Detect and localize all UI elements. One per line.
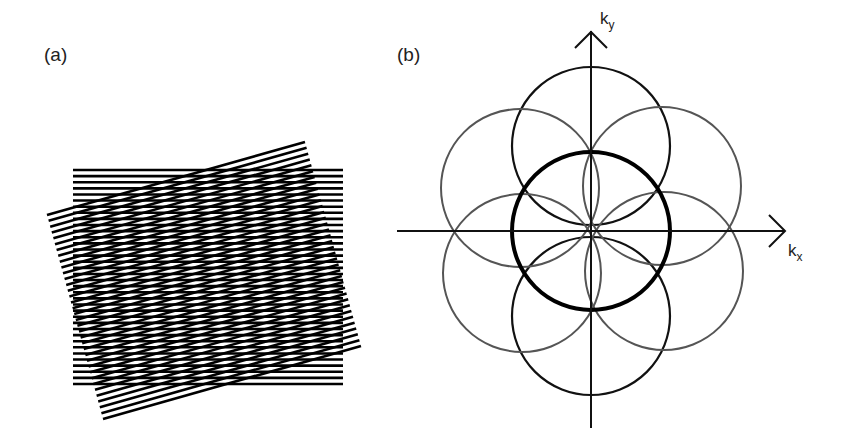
- outer-circle-4: [583, 107, 741, 265]
- ky-label: ky: [600, 9, 615, 32]
- ky-axis: [575, 31, 607, 428]
- outer-circle-6: [585, 192, 743, 350]
- kx-label: kx: [788, 241, 803, 264]
- outer-circle-3: [441, 109, 599, 267]
- figure-canvas: kx ky: [0, 0, 841, 447]
